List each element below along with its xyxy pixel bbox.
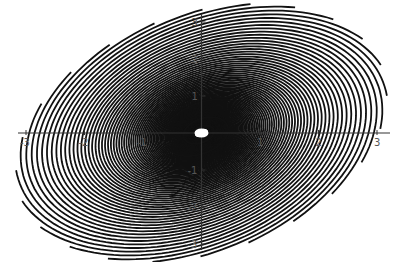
center-marker [195, 129, 209, 138]
y-tick-label: 3 [192, 17, 198, 28]
y-tick-label: 1 [192, 91, 198, 102]
y-tick-label: -2 [188, 202, 198, 213]
x-tick-label: 3 [374, 137, 380, 148]
y-tick-label: -1 [188, 165, 198, 176]
x-tick-label: -1 [137, 137, 147, 148]
x-tick-label: 2 [316, 137, 322, 148]
y-tick-label: 2 [192, 54, 198, 65]
phase-portrait-plot: -3-2-1123 -3-2-1123 [0, 0, 402, 262]
x-tick-label: -3 [20, 137, 30, 148]
x-tick-label: -2 [79, 137, 89, 148]
y-tick-label: -3 [188, 239, 198, 250]
x-tick-label: 1 [257, 137, 263, 148]
